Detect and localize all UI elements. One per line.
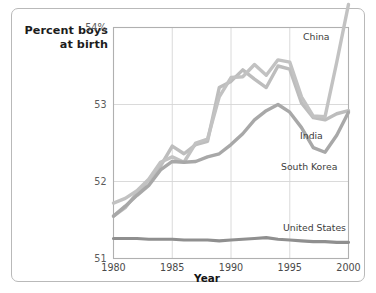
y-tick-label: 53 bbox=[94, 99, 106, 110]
series-label-south-korea: South Korea bbox=[281, 161, 337, 172]
series-label-united-states: United States bbox=[283, 222, 346, 233]
series-label-india: India bbox=[300, 130, 323, 141]
y-tick-label: 54% bbox=[85, 22, 106, 33]
x-axis-title: Year bbox=[0, 272, 376, 284]
x-axis-title-text: Year bbox=[194, 272, 220, 284]
series-label-china: China bbox=[303, 31, 330, 42]
chart-stage: Percent boys at birth 54%535251 19801985… bbox=[0, 0, 376, 293]
y-axis-ticks: 54%535251 bbox=[85, 22, 106, 264]
y-tick-label: 52 bbox=[94, 176, 106, 187]
line-chart: 54%535251 19801985199019952000 ChinaIndi… bbox=[0, 0, 376, 293]
